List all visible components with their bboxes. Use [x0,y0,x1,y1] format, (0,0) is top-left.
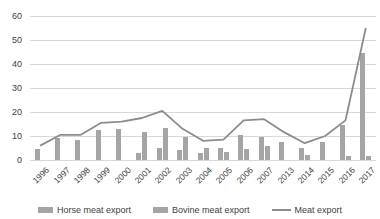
line-series [30,16,376,160]
y-tick-label-0: 0 [0,155,22,166]
x-tick-label-2000: 2000 [112,165,132,185]
x-tick-label-1998: 1998 [72,165,92,185]
legend-label: Bovine meat export [172,205,250,215]
x-tick-label-2007: 2007 [255,165,275,185]
line-swatch-icon [272,209,291,211]
legend-item-meat-export: Meat export [272,205,343,215]
x-tick-label-2004: 2004 [194,165,214,185]
y-tick-label-20: 20 [0,107,22,118]
x-tick-label-1997: 1997 [51,165,71,185]
plot-area: 1996199719981999200020012002200320042005… [30,16,376,160]
x-tick-label-1996: 1996 [31,165,51,185]
y-tick-label-50: 50 [0,35,22,46]
meat-export-chart: 0102030405060 19961997199819992000200120… [0,0,380,219]
legend-label: Meat export [295,205,343,215]
x-tick-label-2017: 2017 [356,165,376,185]
legend-label: Horse meat export [57,205,131,215]
y-tick-label-30: 30 [0,83,22,94]
x-tick-label-2001: 2001 [133,165,153,185]
x-tick-label-2014: 2014 [295,165,315,185]
x-tick-label-2015: 2015 [316,165,336,185]
x-tick-label-1999: 1999 [92,165,112,185]
legend-item-bovine-meat-export: Bovine meat export [153,205,250,215]
bar-swatch-icon [153,207,168,213]
y-tick-label-10: 10 [0,131,22,142]
bar-swatch-icon [38,207,53,213]
x-tick-label-2003: 2003 [173,165,193,185]
meat-export-line [40,28,366,146]
x-tick-label-2013: 2013 [275,165,295,185]
legend-item-horse-meat-export: Horse meat export [38,205,131,215]
x-tick-label-2006: 2006 [234,165,254,185]
x-tick-label-2016: 2016 [336,165,356,185]
y-tick-label-60: 60 [0,11,22,22]
x-tick-label-2002: 2002 [153,165,173,185]
y-tick-label-40: 40 [0,59,22,70]
legend: Horse meat exportBovine meat exportMeat … [0,205,380,215]
x-tick-label-2005: 2005 [214,165,234,185]
